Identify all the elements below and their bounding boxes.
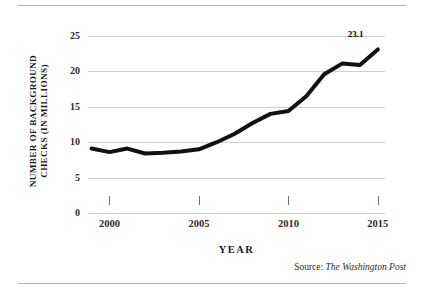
y-tick-label-10: 10 — [58, 137, 80, 147]
y-tick-label-20: 20 — [58, 66, 80, 76]
chart-figure: NUMBER OF BACKGROUND CHECKS (IN MILLIONS… — [0, 0, 424, 292]
y-axis-title: NUMBER OF BACKGROUND CHECKS (IN MILLIONS… — [22, 34, 56, 209]
y-tick-label-0: 0 — [58, 208, 80, 218]
source-publication: The Washington Post — [326, 262, 406, 272]
x-tick-label-2000: 2000 — [89, 218, 129, 229]
x-tick-label-2015: 2015 — [358, 218, 398, 229]
bottom-divider-rule — [18, 283, 406, 284]
y-tick-label-15: 15 — [58, 102, 80, 112]
x-tick-mark-2010 — [288, 196, 289, 205]
y-axis-title-line-1: NUMBER OF BACKGROUND — [28, 55, 39, 187]
x-tick-mark-2015 — [378, 196, 379, 205]
x-tick-mark-2005 — [199, 196, 200, 205]
x-tick-mark-2000 — [109, 196, 110, 205]
data-label-23-1: 23.1 — [348, 29, 364, 39]
series-polyline — [92, 49, 378, 153]
line-series — [88, 36, 385, 213]
top-divider-rule — [18, 5, 406, 6]
plot-area — [88, 36, 385, 213]
x-tick-label-2010: 2010 — [268, 218, 308, 229]
source-note: Source: The Washington Post — [0, 262, 406, 272]
y-tick-label-5: 5 — [58, 173, 80, 183]
x-axis-title: YEAR — [88, 244, 385, 255]
gridline-y-0 — [88, 213, 385, 214]
source-prefix: Source: — [294, 262, 325, 272]
x-tick-label-2005: 2005 — [179, 218, 219, 229]
y-axis-title-line-2: CHECKS (IN MILLIONS) — [39, 64, 50, 178]
y-tick-label-25: 25 — [58, 31, 80, 41]
